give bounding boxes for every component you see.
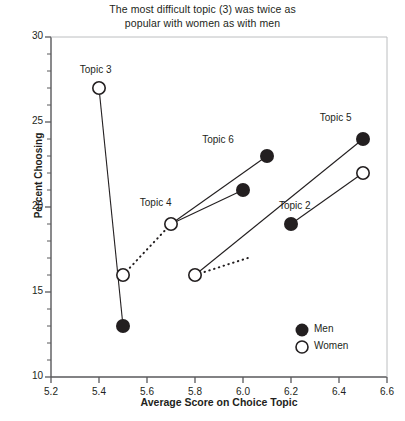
legend-label-women: Women xyxy=(314,340,348,351)
dotted-connector xyxy=(123,224,171,275)
data-point-women[interactable] xyxy=(189,269,201,281)
topic-label: Topic 3 xyxy=(80,64,112,75)
data-point-women[interactable] xyxy=(165,218,177,230)
x-tick-label: 6.2 xyxy=(276,386,306,397)
plot-area xyxy=(0,0,405,421)
data-point-men[interactable] xyxy=(116,319,130,333)
x-tick-label: 6.4 xyxy=(324,386,354,397)
y-tick-label: 25 xyxy=(17,115,43,126)
x-tick-label: 5.4 xyxy=(84,386,114,397)
topic-label: Topic 6 xyxy=(202,134,234,145)
x-tick-label: 5.8 xyxy=(180,386,210,397)
topic-connector-line xyxy=(171,156,267,224)
legend-label-men: Men xyxy=(314,323,333,334)
x-tick-label: 6.0 xyxy=(228,386,258,397)
x-tick-label: 5.6 xyxy=(132,386,162,397)
y-tick-label: 10 xyxy=(17,370,43,381)
data-point-men[interactable] xyxy=(284,217,298,231)
data-point-men[interactable] xyxy=(356,132,370,146)
topic-connector-line xyxy=(291,173,363,224)
data-point-women[interactable] xyxy=(93,82,105,94)
data-point-men[interactable] xyxy=(236,183,250,197)
y-tick-label: 30 xyxy=(17,30,43,41)
x-tick-label: 6.6 xyxy=(372,386,402,397)
data-point-women[interactable] xyxy=(117,269,129,281)
y-tick-label: 20 xyxy=(17,200,43,211)
topic-label: Topic 2 xyxy=(279,200,311,211)
data-point-men[interactable] xyxy=(260,149,274,163)
y-tick-label: 15 xyxy=(17,285,43,296)
x-tick-label: 5.2 xyxy=(36,386,66,397)
chart-container: The most difficult topic (3) was twice a… xyxy=(0,0,405,421)
topic-label: Topic 5 xyxy=(320,112,352,123)
topic-connector-line xyxy=(99,88,123,326)
topic-connector-line xyxy=(171,190,243,224)
topic-label: Topic 4 xyxy=(140,197,172,208)
dotted-connector xyxy=(195,258,248,275)
data-point-women[interactable] xyxy=(357,167,369,179)
